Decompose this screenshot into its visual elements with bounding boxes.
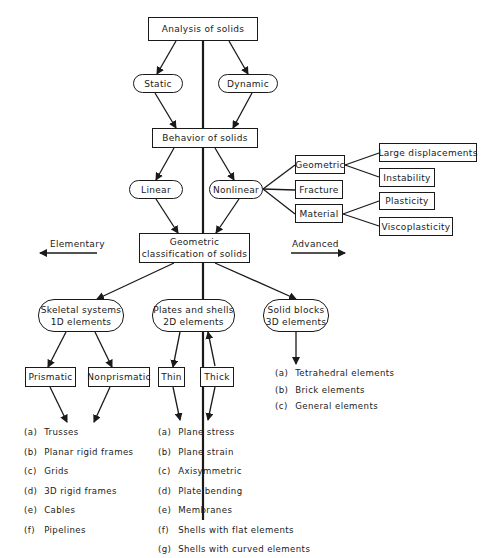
node-label: Viscoplasticity — [382, 221, 451, 233]
node-label: Dynamic — [227, 78, 269, 90]
node-label: Geometric — [295, 159, 345, 171]
node-instability: Instability — [379, 168, 435, 187]
list-item: (c) General elements — [275, 398, 394, 415]
node-linear: Linear — [129, 180, 183, 199]
list-item: (c) Axisymmetric — [158, 462, 310, 482]
node-behavior-of-solids: Behavior of solids — [152, 128, 258, 148]
list-item: (g) Shells with curved elements — [158, 540, 310, 558]
node-label: Nonlinear — [213, 184, 259, 196]
node-viscoplasticity: Viscoplasticity — [379, 217, 453, 236]
list-item: (b) Planar rigid frames — [24, 443, 133, 463]
node-large-displacements: Large displacements — [379, 143, 477, 162]
node-label: 3D elements — [266, 316, 327, 328]
list-item: (b) Plane strain — [158, 443, 310, 463]
list-item: (b) Brick elements — [275, 382, 394, 399]
node-fracture: Fracture — [295, 180, 343, 199]
list-item: (a) Tetrahedral elements — [275, 365, 394, 382]
solid-elements-list: (a) Tetrahedral elements (b) Brick eleme… — [275, 365, 394, 415]
node-label: Plasticity — [385, 195, 428, 207]
skeletal-elements-list: (a) Trusses (b) Planar rigid frames (c) … — [24, 423, 133, 540]
list-item: (d) Plate bending — [158, 482, 310, 502]
node-label: Behavior of solids — [162, 132, 247, 144]
node-geometric: Geometric — [295, 155, 345, 174]
node-label: Linear — [141, 184, 171, 196]
node-material: Material — [295, 204, 343, 223]
elementary-label: Elementary — [50, 239, 105, 249]
node-plasticity: Plasticity — [379, 192, 435, 210]
node-label: Prismatic — [28, 371, 72, 383]
node-label: Thick — [204, 371, 229, 383]
node-plates-and-shells: Plates and shells 2D elements — [152, 299, 235, 332]
node-label: Fracture — [299, 184, 338, 196]
list-item: (a) Trusses — [24, 423, 133, 443]
node-thin: Thin — [158, 367, 185, 387]
node-label: Instability — [383, 172, 430, 184]
node-label: 2D elements — [163, 316, 224, 328]
list-item: (e) Cables — [24, 501, 133, 521]
node-label: Large displacements — [378, 147, 477, 159]
node-label: classification of solids — [142, 248, 247, 260]
node-label: Skeletal systems — [41, 304, 122, 316]
node-label: Analysis of solids — [162, 23, 244, 35]
list-item: (d) 3D rigid frames — [24, 482, 133, 502]
list-item: (f) Shells with flat elements — [158, 521, 310, 541]
list-item: (f) Pipelines — [24, 521, 133, 541]
plates-elements-list: (a) Plane stress (b) Plane strain (c) Ax… — [158, 423, 310, 558]
list-item: (a) Plane stress — [158, 423, 310, 443]
node-skeletal-systems: Skeletal systems 1D elements — [38, 299, 124, 332]
node-label: Solid blocks — [268, 304, 325, 316]
node-dynamic: Dynamic — [218, 74, 278, 93]
node-nonlinear: Nonlinear — [209, 180, 263, 199]
list-item: (c) Grids — [24, 462, 133, 482]
node-label: Nonprismatic — [87, 371, 150, 383]
node-label: Material — [300, 208, 339, 220]
node-prismatic: Prismatic — [25, 367, 76, 387]
list-item: (e) Membranes — [158, 501, 310, 521]
node-thick: Thick — [200, 367, 234, 387]
advanced-label: Advanced — [292, 239, 339, 249]
node-static: Static — [133, 74, 183, 93]
node-solid-blocks: Solid blocks 3D elements — [263, 299, 329, 332]
node-label: Thin — [161, 371, 182, 383]
node-analysis-of-solids: Analysis of solids — [148, 17, 258, 41]
node-label: Geometric — [170, 236, 220, 248]
node-label: Plates and shells — [153, 304, 234, 316]
node-label: Static — [144, 78, 172, 90]
node-nonprismatic: Nonprismatic — [88, 367, 150, 387]
node-label: 1D elements — [51, 316, 112, 328]
node-geometric-classification: Geometric classification of solids — [139, 233, 250, 263]
